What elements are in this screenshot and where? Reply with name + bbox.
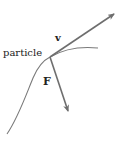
particle-label: particle	[3, 47, 42, 58]
force-arrow	[50, 57, 68, 111]
velocity-label: v	[54, 32, 62, 43]
trajectory-diagram: particle v F	[0, 0, 122, 148]
trajectory-curve	[7, 47, 98, 134]
force-label: F	[43, 75, 51, 88]
